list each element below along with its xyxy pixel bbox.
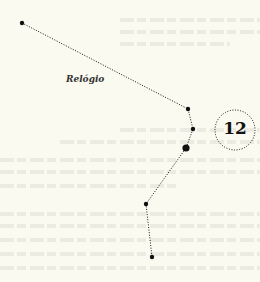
path-point — [20, 21, 24, 25]
badge-number: 12 — [215, 118, 255, 138]
label-relogio: Relógio — [66, 74, 104, 84]
diagram-svg — [0, 0, 260, 282]
path-point — [144, 202, 148, 206]
diagram-canvas: Relógio 12 — [0, 0, 260, 282]
path-point — [186, 107, 190, 111]
path-point — [150, 255, 154, 259]
path-point — [182, 144, 189, 151]
path-point — [191, 127, 195, 131]
